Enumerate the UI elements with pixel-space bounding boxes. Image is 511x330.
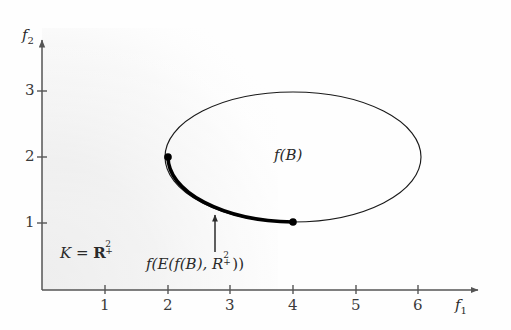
figure-container: f2 f1 1 2 3 4 5 6 1 2 3 K = R2+ f(B) f(E… <box>0 0 511 330</box>
x-tick-label-2: 2 <box>163 296 173 314</box>
ordering-cone-label: K = R2+ <box>60 243 114 262</box>
y-tick-label-1: 1 <box>25 213 35 231</box>
efficient-set-label: f(E(f(B), R2+)) <box>146 254 244 273</box>
efficient-set-label-indices: 2+ <box>223 254 232 269</box>
image-set-label: f(B) <box>274 146 302 164</box>
cone-label-indices: 2+ <box>105 243 114 258</box>
efficient-set-label-tail: )) <box>232 255 244 273</box>
x-axis-label: f1 <box>455 296 467 316</box>
x-tick-label-4: 4 <box>288 296 298 314</box>
cone-label-subscript: + <box>105 246 113 256</box>
x-tick-label-6: 6 <box>413 296 423 314</box>
cone-label-equals: = <box>76 244 89 262</box>
x-tick-label-1: 1 <box>100 296 110 314</box>
lower-right-marker <box>289 218 297 226</box>
y-tick-label-3: 3 <box>25 81 35 99</box>
x-tick-label-5: 5 <box>351 296 361 314</box>
y-axis-label-sub: 2 <box>28 35 34 46</box>
y-tick-label-2: 2 <box>25 147 35 165</box>
efficient-set-label-subscript: + <box>223 257 231 267</box>
cone-label-k: K <box>60 244 71 262</box>
y-axis-label: f2 <box>22 26 34 46</box>
cone-label-set: R <box>93 244 105 262</box>
x-tick-label-3: 3 <box>225 296 235 314</box>
upper-left-marker <box>164 153 172 161</box>
plot-canvas <box>0 0 511 330</box>
x-axis-label-sub: 1 <box>461 305 467 316</box>
efficient-set-label-head: f(E(f(B), R <box>146 255 223 273</box>
